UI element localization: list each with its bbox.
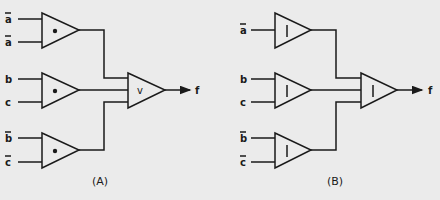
or-symbol: v — [137, 85, 143, 96]
input-label-b-bar: b — [240, 133, 247, 144]
input-label-a-bar: a — [5, 14, 12, 25]
and-gate-a3: b c — [5, 132, 79, 168]
input-label-b-bar: b — [5, 133, 12, 144]
and-dot-icon — [53, 29, 57, 33]
input-label-c-bar: c — [5, 157, 11, 168]
input-label-b: b — [240, 74, 247, 85]
output-label-f: f — [195, 85, 200, 96]
input-label-b: b — [5, 74, 12, 85]
caption-a: (A) — [92, 175, 108, 188]
input-label-c-bar: c — [240, 157, 246, 168]
and-gate-a2: b c — [5, 73, 79, 108]
nand-gate-b-output — [361, 73, 397, 108]
caption-b: (B) — [327, 175, 343, 188]
nand-gate-b3: b c — [240, 132, 311, 168]
nand-gate-b2: b c — [240, 73, 311, 108]
and-dot-icon — [53, 149, 57, 153]
output-label-f: f — [428, 85, 433, 96]
nand-gate-b1: a — [240, 13, 311, 48]
and-dot-icon — [53, 89, 57, 93]
input-label-a-bar: a — [240, 25, 247, 36]
input-label-a-bar: a — [5, 37, 12, 48]
or-gate-a-output: v — [128, 73, 165, 108]
diagram-b: a b c b c — [240, 13, 433, 188]
and-gate-a1: a a — [5, 13, 79, 48]
input-label-c: c — [240, 97, 246, 108]
logic-diagram: a a b c b c — [0, 0, 440, 200]
input-label-c: c — [5, 97, 11, 108]
diagram-a: a a b c b c — [5, 13, 200, 188]
